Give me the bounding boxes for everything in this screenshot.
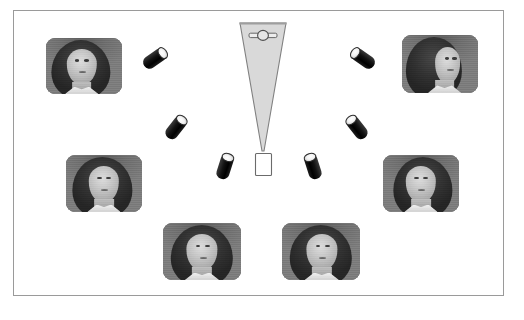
photo-thumbnail-bottom-right[interactable] — [282, 223, 360, 280]
portrait-grain — [46, 38, 122, 94]
portrait-image — [402, 35, 478, 93]
photo-thumbnail-mid-left[interactable] — [66, 155, 142, 212]
figure-canvas — [0, 0, 524, 320]
portrait-grain — [282, 223, 360, 280]
portrait-image — [66, 155, 142, 212]
portrait-image — [46, 38, 122, 94]
portrait-image — [163, 223, 241, 280]
portrait-grain — [66, 155, 142, 212]
portrait-grain — [163, 223, 241, 280]
portrait-image — [383, 155, 459, 212]
photo-thumbnail-top-right[interactable] — [402, 35, 478, 93]
photo-thumbnail-top-left[interactable] — [46, 38, 122, 94]
portrait-grain — [383, 155, 459, 212]
photo-thumbnail-mid-right[interactable] — [383, 155, 459, 212]
portrait-grain — [402, 35, 478, 93]
photo-thumbnail-bottom-left[interactable] — [163, 223, 241, 280]
portrait-image — [282, 223, 360, 280]
